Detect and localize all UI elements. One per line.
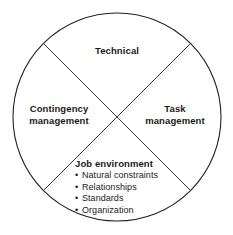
bullet-icon: • [75,170,78,182]
list-item-label: Relationships [82,182,137,192]
list-item-label: Standards [82,193,123,203]
list-item-label: Natural constraints [82,170,158,180]
quadrant-label-contingency-management: Contingency management [18,103,100,126]
job-environment-heading: Job environment [75,158,185,170]
list-item: • Organization [75,205,185,217]
job-environment-list: • Natural constraints • Relationships • … [75,170,185,216]
list-item-label: Organization [82,205,134,215]
list-item: • Relationships [75,182,185,194]
bullet-icon: • [75,205,78,217]
quadrant-label-task-management: Task management [134,103,216,126]
quadrant-block-job-environment: Job environment • Natural constraints • … [75,158,185,216]
competence-model-diagram: Technical Contingency management Task ma… [0,0,233,235]
quadrant-label-technical: Technical [57,45,177,57]
bullet-icon: • [75,182,78,194]
list-item: • Natural constraints [75,170,185,182]
bullet-icon: • [75,193,78,205]
list-item: • Standards [75,193,185,205]
